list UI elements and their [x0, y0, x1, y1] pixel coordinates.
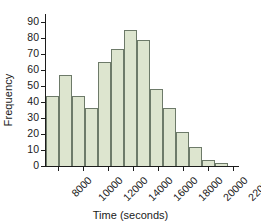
plot-area: 0102030405060708090 80001000012000140001… [45, 14, 239, 167]
y-tick-mark [41, 22, 45, 23]
y-tick-label: 20 [27, 127, 39, 140]
x-tick-mark [108, 167, 109, 171]
histogram-bar [59, 75, 72, 166]
x-tick-mark [83, 167, 84, 171]
y-tick-label: 0 [33, 159, 39, 172]
x-tick-mark [233, 167, 234, 171]
histogram-bar [124, 30, 137, 166]
y-axis-title: Frequency [2, 52, 14, 148]
histogram-bar [150, 89, 163, 166]
x-tick-label: 12000 [121, 174, 150, 203]
x-tick-label: 16000 [171, 174, 200, 203]
bar-series [46, 14, 239, 166]
x-axis-line [45, 166, 239, 167]
y-tick-label: 40 [27, 95, 39, 108]
y-tick-mark [41, 54, 45, 55]
histogram-bar [215, 163, 228, 166]
histogram-bar [111, 49, 124, 166]
x-tick-mark [58, 167, 59, 171]
histogram-bar [202, 160, 215, 166]
y-tick-mark [41, 86, 45, 87]
y-tick-label: 90 [27, 15, 39, 28]
histogram-figure: Frequency 0102030405060708090 8000100001… [0, 0, 261, 223]
x-tick-label: 10000 [96, 174, 125, 203]
y-tick-label: 10 [27, 143, 39, 156]
x-tick-label: 20000 [220, 174, 249, 203]
y-tick-label: 50 [27, 79, 39, 92]
histogram-bar [176, 132, 189, 166]
x-tick-mark [133, 167, 134, 171]
histogram-bar [163, 108, 176, 166]
histogram-bar [189, 147, 202, 166]
x-tick-label: 18000 [196, 174, 225, 203]
y-tick-label: 80 [27, 31, 39, 44]
y-tick-mark [41, 150, 45, 151]
y-tick-label: 30 [27, 111, 39, 124]
y-tick-mark [41, 166, 45, 167]
y-tick-label: 70 [27, 47, 39, 60]
x-tick-label: 8000 [69, 174, 94, 199]
y-tick-mark [41, 134, 45, 135]
x-tick-mark [158, 167, 159, 171]
histogram-bar [137, 40, 150, 166]
histogram-bar [98, 62, 111, 166]
histogram-bar [85, 108, 98, 166]
y-tick-mark [41, 38, 45, 39]
x-tick-label: 22000 [245, 174, 261, 203]
x-tick-mark [183, 167, 184, 171]
y-tick-label: 60 [27, 63, 39, 76]
histogram-bar [46, 96, 59, 166]
y-tick-mark [41, 118, 45, 119]
y-tick-mark [41, 102, 45, 103]
histogram-bar [72, 96, 85, 166]
x-axis-title: Time (seconds) [0, 209, 261, 221]
x-tick-mark [208, 167, 209, 171]
y-tick-mark [41, 70, 45, 71]
x-tick-label: 14000 [146, 174, 175, 203]
